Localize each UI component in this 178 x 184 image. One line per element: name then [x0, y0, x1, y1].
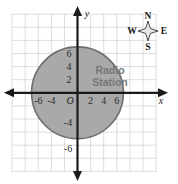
x-tick-label-neg4: -4	[47, 95, 55, 106]
x-tick-label-neg6: -6	[34, 95, 42, 106]
x-tick-label-4: 4	[101, 95, 106, 106]
y-tick-label-neg4: -4	[64, 117, 72, 128]
y-tick-label-2: 2	[67, 74, 72, 85]
y-tick-label-6: 6	[67, 48, 72, 59]
x-axis-label: x	[158, 95, 164, 106]
compass-west-label: W	[127, 26, 137, 36]
y-tick-label-4: 4	[67, 61, 72, 72]
compass-south-label: S	[145, 42, 150, 52]
coordinate-plane-figure: x y O -6 -4 2 4 6 6 4 2 -4 -6 Radio Stat…	[0, 0, 178, 184]
coordinate-plane-svg: x y O -6 -4 2 4 6 6 4 2 -4 -6 Radio Stat…	[0, 0, 178, 184]
x-tick-label-2: 2	[88, 95, 93, 106]
origin-label: O	[66, 95, 73, 106]
y-axis-label: y	[84, 8, 90, 19]
y-tick-label-neg6: -6	[64, 143, 72, 154]
compass-north-label: N	[145, 11, 152, 21]
region-label-line1: Radio	[95, 64, 124, 76]
x-tick-label-6: 6	[114, 95, 119, 106]
compass-east-label: E	[161, 26, 167, 36]
region-label-line2: Station	[92, 76, 128, 88]
